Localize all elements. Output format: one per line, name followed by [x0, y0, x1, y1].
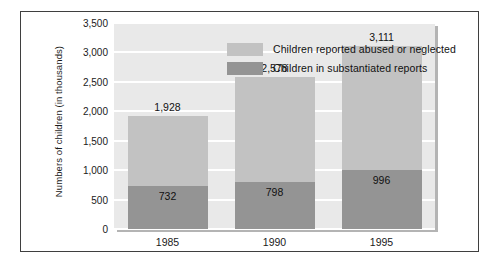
y-axis-tick-label: 1,500 [48, 135, 108, 146]
x-axis-tick-label: 1990 [230, 236, 320, 248]
gridline [114, 22, 435, 24]
plot-area: 1,9287322,5787983,111996 Children report… [114, 23, 435, 229]
legend-item-reported: Children reported abused or neglected [227, 42, 456, 56]
y-axis-tick-label: 2,500 [48, 76, 108, 87]
bar-group[interactable]: 1,928732 [128, 116, 208, 229]
x-axis-tick-label: 1985 [123, 236, 213, 248]
y-axis-tick-label: 3,000 [48, 47, 108, 58]
legend-swatch-icon-reported [227, 43, 263, 56]
bar-value-label-substantiated: 732 [128, 190, 208, 202]
y-axis-tick-label: 1,000 [48, 165, 108, 176]
chart-legend: Children reported abused or neglected Ch… [227, 42, 456, 75]
legend-label-substantiated: Children in substantiated reports [273, 62, 427, 74]
x-axis-tick-label: 1995 [337, 236, 427, 248]
bar-group[interactable]: 2,578798 [235, 77, 315, 229]
legend-item-substantiated: Children in substantiated reports [227, 61, 456, 75]
legend-label-reported: Children reported abused or neglected [273, 43, 456, 55]
y-axis-tick-label: 500 [48, 194, 108, 205]
y-axis-tick-label: 2,000 [48, 106, 108, 117]
legend-swatch-icon-substantiated [227, 62, 263, 75]
bar-value-label-total: 1,928 [128, 101, 208, 113]
chart-figure: Numbers of children (in thousands) 05001… [0, 0, 499, 264]
chart-frame: Numbers of children (in thousands) 05001… [20, 11, 479, 252]
bar-value-label-substantiated: 996 [342, 174, 422, 186]
y-axis-tick-label: 0 [48, 224, 108, 235]
bar-value-label-substantiated: 798 [235, 186, 315, 198]
y-axis-tick-label: 3,500 [48, 18, 108, 29]
